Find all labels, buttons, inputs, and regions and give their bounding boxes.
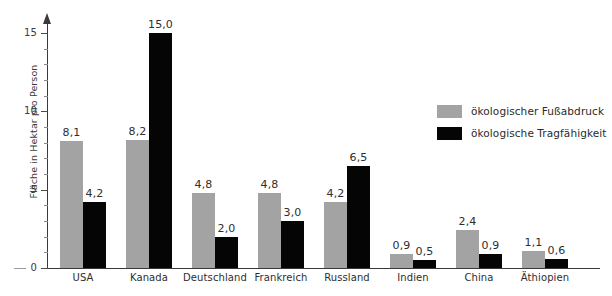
bar-value-label-biocapacity-0: 4,2: [77, 187, 112, 200]
y-tick-minor-12: [44, 80, 48, 81]
bar-biocapacity-5: [413, 260, 436, 268]
bar-biocapacity-3: [281, 221, 304, 268]
legend-label-footprint: ökologischer Fußabdruck: [471, 105, 604, 117]
y-tick-major-5: [41, 190, 48, 191]
legend-label-biocapacity: ökologische Tragfähigkeit: [471, 127, 607, 139]
bar-biocapacity-4: [347, 166, 370, 268]
bar-value-label-biocapacity-6: 0,9: [473, 239, 508, 252]
y-tick-minor-9: [44, 127, 48, 128]
bar-footprint-4: [324, 202, 347, 268]
bar-biocapacity-0: [83, 202, 106, 268]
bar-biocapacity-6: [479, 254, 502, 268]
y-tick-minor-14: [44, 49, 48, 50]
y-tick-minor-6: [44, 174, 48, 175]
y-tick-minor-3: [44, 221, 48, 222]
bar-value-label-biocapacity-4: 6,5: [341, 151, 376, 164]
y-tick-major-10: [41, 111, 48, 112]
bar-biocapacity-7: [545, 259, 568, 268]
bar-footprint-1: [126, 140, 149, 268]
bar-value-label-biocapacity-1: 15,0: [143, 18, 178, 31]
bar-value-label-footprint-0: 8,1: [54, 126, 89, 139]
legend-item-biocapacity: ökologische Tragfähigkeit: [437, 122, 607, 144]
bar-value-label-biocapacity-5: 0,5: [407, 245, 442, 258]
bar-value-label-footprint-3: 4,8: [252, 178, 287, 191]
y-tick-minor-4: [44, 205, 48, 206]
y-axis-title: Fläche in Hektar pro Person: [28, 37, 39, 227]
legend-item-footprint: ökologischer Fußabdruck: [437, 100, 607, 122]
bar-value-label-biocapacity-7: 0,6: [539, 244, 574, 257]
y-tick-minor-7: [44, 158, 48, 159]
y-tick-minor-2: [44, 237, 48, 238]
y-tick-label-10: 10: [13, 105, 37, 116]
bar-chart-plot-area: Fläche in Hektar pro Person 051015 8,14,…: [0, 0, 612, 296]
y-tick-major-15: [41, 33, 48, 34]
y-tick-minor-8: [44, 143, 48, 144]
y-tick-label-0: 0: [13, 262, 37, 273]
y-tick-minor-1: [44, 252, 48, 253]
legend-swatch-biocapacity-icon: [437, 127, 462, 140]
bar-footprint-3: [258, 193, 281, 268]
y-axis-arrow-icon: [43, 13, 51, 24]
chart-page: Fläche in Hektar pro Person 051015 8,14,…: [0, 0, 612, 296]
bar-footprint-0: [60, 141, 83, 268]
category-label-äthiopien: Äthiopien: [500, 272, 590, 283]
y-tick-minor-13: [44, 64, 48, 65]
bar-value-label-footprint-6: 2,4: [450, 215, 485, 228]
legend-swatch-footprint-icon: [437, 105, 462, 118]
bar-value-label-footprint-2: 4,8: [186, 178, 221, 191]
y-tick-label-5: 5: [13, 184, 37, 195]
y-tick-major-0: [41, 268, 48, 269]
y-tick-minor-11: [44, 96, 48, 97]
chart-legend: ökologischer Fußabdruck ökologische Trag…: [437, 100, 607, 144]
bar-biocapacity-2: [215, 237, 238, 268]
bar-value-label-biocapacity-2: 2,0: [209, 222, 244, 235]
bar-biocapacity-1: [149, 33, 172, 268]
bar-value-label-biocapacity-3: 3,0: [275, 206, 310, 219]
y-tick-label-15: 15: [13, 27, 37, 38]
x-axis-line: [47, 268, 600, 269]
y-axis-line: [47, 22, 48, 269]
